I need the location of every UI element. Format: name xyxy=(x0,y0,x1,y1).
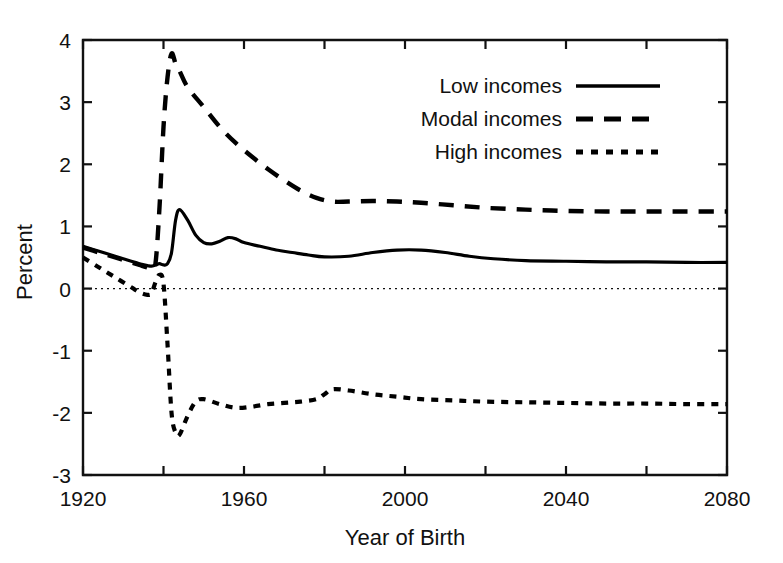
y-tick-label: -2 xyxy=(52,402,71,425)
y-tick-label: 4 xyxy=(59,29,71,52)
x-tick-label: 2000 xyxy=(382,487,429,510)
y-axis-title: Percent xyxy=(12,224,37,300)
x-tick-label: 1960 xyxy=(221,487,268,510)
data-series-group xyxy=(83,53,727,436)
legend-label: Modal incomes xyxy=(421,107,562,130)
legend: Low incomesModal incomesHigh incomes xyxy=(421,74,660,163)
x-tick-label: 1920 xyxy=(60,487,107,510)
y-tick-label: -1 xyxy=(52,340,71,363)
series-line-high-incomes xyxy=(83,258,727,437)
y-tick-label: 0 xyxy=(59,278,71,301)
chart-figure: -3-2-101234 19201960200020402080 Percent… xyxy=(0,0,783,563)
axis-tick-marks xyxy=(83,40,727,475)
legend-label: Low incomes xyxy=(439,74,562,97)
y-tick-label: 1 xyxy=(59,215,71,238)
y-tick-label: 2 xyxy=(59,153,71,176)
y-tick-label: 3 xyxy=(59,91,71,114)
x-tick-label: 2040 xyxy=(543,487,590,510)
line-chart: -3-2-101234 19201960200020402080 Percent… xyxy=(0,0,783,563)
series-line-low-incomes xyxy=(83,210,727,267)
x-tick-label: 2080 xyxy=(704,487,751,510)
x-axis-title: Year of Birth xyxy=(345,525,465,550)
y-tick-label: -3 xyxy=(52,464,71,487)
plot-frame xyxy=(83,40,727,475)
y-axis-tick-labels: -3-2-101234 xyxy=(52,29,71,487)
legend-label: High incomes xyxy=(435,140,562,163)
x-axis-tick-labels: 19201960200020402080 xyxy=(60,487,751,510)
